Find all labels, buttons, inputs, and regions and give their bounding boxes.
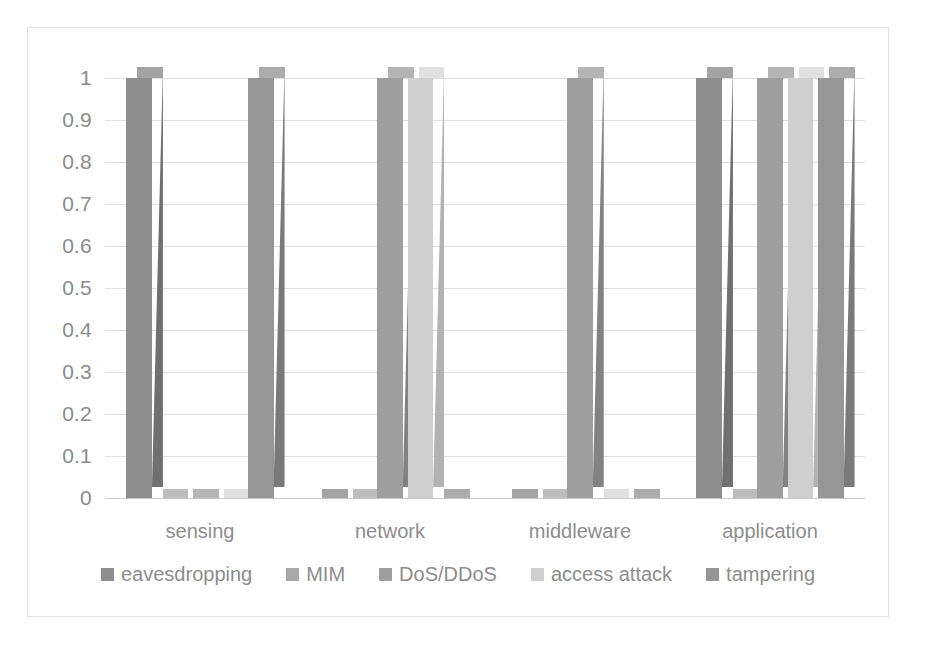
y-axis-tick-label: 0.9: [62, 108, 92, 132]
bar-top-face: [193, 489, 219, 498]
bar-side-face: [722, 67, 733, 487]
bar-top-face: [224, 489, 250, 498]
bar-top-face: [444, 489, 470, 498]
bar-top-face: [137, 67, 163, 78]
gridline: [105, 78, 865, 79]
bar-top-face: [768, 67, 794, 78]
y-axis-tick-label: 0: [80, 486, 92, 510]
x-axis-category-label: middleware: [529, 520, 631, 543]
gridline: [105, 330, 865, 331]
bar[interactable]: [818, 78, 844, 498]
bar-top-face: [707, 67, 733, 78]
bar-front-face: [567, 78, 593, 498]
legend-label: eavesdropping: [121, 563, 252, 586]
bar-front-face: [248, 78, 274, 498]
bar-top-face: [733, 489, 759, 498]
legend-label: DoS/DDoS: [399, 563, 497, 586]
legend-swatch-icon: [286, 568, 299, 581]
bar-top-face: [388, 67, 414, 78]
bar[interactable]: [567, 78, 593, 498]
bar-top-face: [353, 489, 379, 498]
y-axis-tick-label: 0.1: [62, 444, 92, 468]
bar-side-face: [152, 67, 163, 487]
legend-swatch-icon: [379, 568, 392, 581]
y-axis-tick-label: 0.6: [62, 234, 92, 258]
bar-side-face: [274, 67, 285, 487]
gridline: [105, 162, 865, 163]
gridline: [105, 120, 865, 121]
chart-frame: 10.90.80.70.60.50.40.30.20.10 sensingnet…: [27, 27, 889, 617]
bar-top-face: [799, 67, 825, 78]
legend-item[interactable]: MIM: [286, 563, 345, 586]
legend-label: tampering: [726, 563, 815, 586]
legend-item[interactable]: DoS/DDoS: [379, 563, 497, 586]
bar-top-face: [419, 67, 445, 78]
bar-top-face: [543, 489, 569, 498]
y-axis-tick-label: 1: [80, 66, 92, 90]
bar-top-face: [322, 489, 348, 498]
legend-label: MIM: [306, 563, 345, 586]
x-axis-category-label: application: [722, 520, 818, 543]
bar-side-face: [844, 67, 855, 487]
x-axis-category-labels: sensingnetworkmiddlewareapplication: [105, 520, 865, 552]
bar-front-face: [818, 78, 844, 498]
bar-front-face: [126, 78, 152, 498]
bar-top-face: [578, 67, 604, 78]
legend-item[interactable]: tampering: [706, 563, 815, 586]
gridline: [105, 204, 865, 205]
gridline: [105, 246, 865, 247]
bar-front-face: [696, 78, 722, 498]
bar[interactable]: [126, 78, 152, 498]
plot-area: 10.90.80.70.60.50.40.30.20.10: [105, 78, 865, 498]
bar[interactable]: [757, 78, 783, 498]
bar[interactable]: [788, 78, 814, 498]
legend-item[interactable]: eavesdropping: [101, 563, 252, 586]
y-axis-tick-label: 0.8: [62, 150, 92, 174]
y-axis-tick-label: 0.4: [62, 318, 92, 342]
bar-side-face: [593, 67, 604, 487]
bar-top-face: [829, 67, 855, 78]
y-axis-tick-label: 0.2: [62, 402, 92, 426]
bar-top-face: [259, 67, 285, 78]
bar-side-face: [433, 67, 444, 487]
legend-swatch-icon: [101, 568, 114, 581]
bar-top-face: [604, 489, 630, 498]
legend-swatch-icon: [531, 568, 544, 581]
chart-legend: eavesdroppingMIMDoS/DDoSaccess attacktam…: [28, 563, 888, 586]
bar[interactable]: [248, 78, 274, 498]
y-axis-tick-label: 0.3: [62, 360, 92, 384]
bar-top-face: [163, 489, 189, 498]
gridline: [105, 456, 865, 457]
bar-top-face: [634, 489, 660, 498]
legend-item[interactable]: access attack: [531, 563, 672, 586]
axis-baseline: [105, 498, 865, 499]
legend-label: access attack: [551, 563, 672, 586]
gridline: [105, 372, 865, 373]
bar[interactable]: [696, 78, 722, 498]
gridline: [105, 288, 865, 289]
bar-front-face: [757, 78, 783, 498]
bar-top-face: [512, 489, 538, 498]
bar-front-face: [377, 78, 403, 498]
y-axis-tick-label: 0.7: [62, 192, 92, 216]
bar-front-face: [408, 78, 434, 498]
gridline: [105, 414, 865, 415]
bar[interactable]: [408, 78, 434, 498]
x-axis-category-label: network: [355, 520, 425, 543]
y-axis-tick-label: 0.5: [62, 276, 92, 300]
bar-front-face: [788, 78, 814, 498]
legend-swatch-icon: [706, 568, 719, 581]
x-axis-category-label: sensing: [166, 520, 235, 543]
bar[interactable]: [377, 78, 403, 498]
